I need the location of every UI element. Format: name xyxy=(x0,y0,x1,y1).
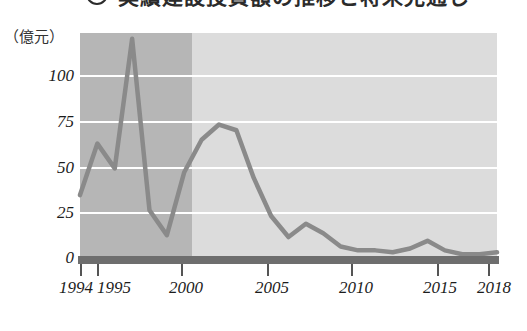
x-tickmark-2000 xyxy=(181,264,183,276)
x-tick-label-2010: 2010 xyxy=(339,278,373,298)
x-tickmark-2010 xyxy=(351,264,353,276)
x-tick-label-2005: 2005 xyxy=(255,278,289,298)
x-axis-baseline xyxy=(78,256,499,264)
x-tick-label-1995: 1995 xyxy=(97,278,131,298)
x-tickmark-1995 xyxy=(97,264,99,276)
x-tick-label-2018: 2018 xyxy=(477,278,511,298)
x-tick-label-1994: 1994 xyxy=(59,278,93,298)
x-tickmark-2018 xyxy=(488,264,490,276)
x-tick-label-2000: 2000 xyxy=(169,278,203,298)
x-tickmark-1994 xyxy=(80,264,82,276)
x-tickmark-2005 xyxy=(267,264,269,276)
x-tick-label-2015: 2015 xyxy=(423,278,457,298)
line-chart-figure: 100 75 50 25 0 1994 1995 2000 2005 2010 … xyxy=(0,0,527,331)
x-tickmark-2015 xyxy=(437,264,439,276)
